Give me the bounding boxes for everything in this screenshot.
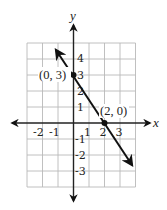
x-tick-label: -1	[49, 126, 60, 139]
x-tick-label: 3	[116, 126, 123, 139]
y-axis-label: y	[68, 8, 76, 23]
point-label-x-intercept: (2, 0)	[100, 104, 127, 118]
y-tick-label: 4	[77, 52, 84, 65]
y-tick-labels: 4 3 2 1 -1 -2 -3	[75, 52, 86, 178]
point-x-intercept	[102, 120, 108, 126]
x-axis-label: x	[152, 115, 159, 130]
y-tick-label: -2	[75, 149, 86, 162]
point-y-intercept	[71, 72, 77, 78]
point-label-y-intercept: (0, 3)	[39, 68, 66, 82]
y-tick-label: 1	[77, 101, 84, 114]
y-tick-label: 3	[77, 69, 84, 82]
y-tick-label: -1	[75, 133, 86, 146]
x-tick-label: 2	[100, 126, 107, 139]
coordinate-plane: x y -2 -1 1 2 3 4 3 2 1 -1 -2 -3 (0, 3) …	[0, 0, 167, 210]
y-tick-label: -3	[75, 165, 86, 178]
x-tick-label: -2	[33, 126, 44, 139]
